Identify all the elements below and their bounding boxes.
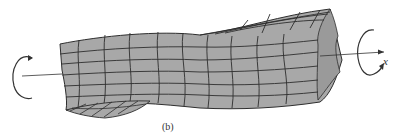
figure-caption: (b) (162, 121, 174, 132)
axis-line-left (22, 74, 62, 76)
rotation-arrow-left-icon (13, 57, 32, 99)
x-axis-label: x (383, 55, 388, 67)
torsion-diagram (0, 0, 404, 140)
axis-arrowhead-icon (378, 50, 384, 55)
